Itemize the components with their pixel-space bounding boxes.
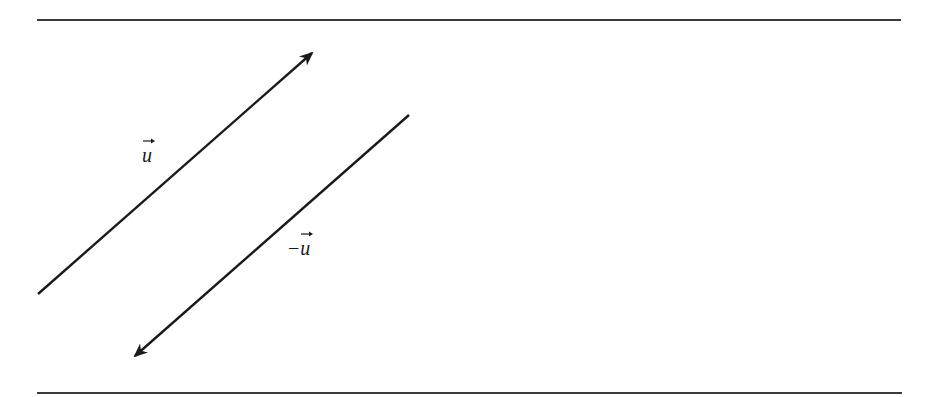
- vector-u-arrow: [38, 53, 312, 294]
- vector-negative-u-arrow: [135, 115, 409, 356]
- vector-u-symbol: u: [142, 144, 152, 166]
- vector-negative-u-symbol: u: [300, 237, 310, 259]
- vector-arrow-accent-icon: [301, 231, 313, 237]
- vector-arrow-accent-icon: [143, 138, 155, 144]
- vector-diagram: [0, 0, 941, 397]
- vector-u-label: u: [142, 145, 152, 165]
- vector-negative-u-label: − u: [288, 238, 310, 258]
- minus-sign: −: [288, 237, 299, 259]
